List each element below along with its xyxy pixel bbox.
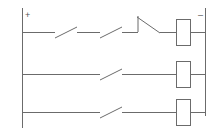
positive-polarity-label: + xyxy=(25,10,30,20)
ladder-diagram-canvas: + – xyxy=(0,0,223,135)
ladder-diagram-svg: + – xyxy=(0,0,223,135)
contact-3-1[interactable] xyxy=(100,107,122,118)
rung-2 xyxy=(22,61,205,87)
contact-1-1[interactable] xyxy=(55,27,77,38)
negative-polarity-label: – xyxy=(198,10,203,20)
coil-1[interactable] xyxy=(176,19,190,45)
coil-2[interactable] xyxy=(176,61,190,87)
coil-3[interactable] xyxy=(176,99,190,125)
rung-3 xyxy=(22,99,205,125)
rung-1 xyxy=(22,16,205,45)
contact-2-1[interactable] xyxy=(100,69,122,80)
contact-1-2[interactable] xyxy=(100,27,122,38)
contact-1-3[interactable] xyxy=(137,17,160,33)
